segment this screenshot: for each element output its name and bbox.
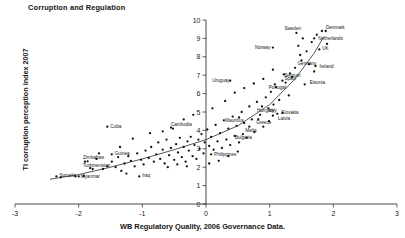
point-label: Denmark [326,25,345,30]
point-label: Slovakia [281,110,299,115]
y-tick-label: 10 [193,17,201,24]
data-point-labeled [318,48,320,50]
data-point [229,144,231,146]
data-point [212,149,214,151]
data-point [238,141,240,143]
data-point-labeled [172,127,174,129]
data-point-labeled [295,32,297,34]
y-axis: 012345678910 [193,17,206,208]
data-point [253,82,255,84]
point-label: Mauritius [225,118,244,123]
point-label: Germany [298,61,318,66]
y-tick-label: 2 [197,164,201,171]
scatter-plot: -3-2-10123 012345678910 SwedenDenmarkNet… [0,0,405,238]
data-point-labeled [78,175,80,177]
point-label: Cambodia [171,122,192,127]
point-labels: SwedenDenmarkNetherlandsNorwayUKGermanyI… [59,25,345,179]
data-point [272,69,274,71]
data-point [299,54,301,56]
data-point-labeled [111,153,113,155]
data-point [190,136,192,138]
data-point-labeled [304,83,306,85]
data-point [184,161,186,163]
y-tick-label: 1 [197,182,201,189]
y-tick-label: 0 [197,201,201,208]
data-point [197,138,199,140]
data-point [225,138,227,140]
data-point [102,168,104,170]
data-point [188,149,190,151]
data-point-labeled [92,168,94,170]
data-point-labeled [321,30,323,32]
point-label: Turkmenistan [83,163,111,168]
point-label: Uruguay [212,78,230,83]
y-tick-label: 7 [197,72,201,79]
data-point [120,170,122,172]
x-tick-label: 2 [331,210,335,217]
point-label: Sweden [284,26,301,31]
data-point [157,141,159,143]
point-label: Spain [284,76,296,81]
data-point [123,162,125,164]
chart-container: Corruption and Regulation TI corruption … [0,0,405,238]
y-tick-label: 6 [197,90,201,97]
data-point [227,127,229,129]
data-point [153,161,155,163]
data-point [214,124,216,126]
x-tick-label: -1 [139,210,145,217]
data-point [155,153,157,155]
data-point [195,158,197,160]
data-point [165,138,167,140]
x-tick-label: 1 [268,210,272,217]
data-point [216,140,218,142]
point-label: Estonia [310,80,326,85]
data-point-labeled [281,80,283,82]
data-point [177,151,179,153]
point-label: Zimbabwe [83,155,105,160]
point-label: Ireland [320,64,334,69]
point-label: Cuba [110,124,121,129]
point-label: Malta [245,128,257,133]
data-point [206,128,208,130]
data-point [302,37,304,39]
x-axis: -3-2-10123 [12,204,399,217]
point-label: Norway [255,45,271,50]
data-point [167,166,169,168]
data-point [140,159,142,161]
data-point [132,138,134,140]
data-point [262,126,264,128]
data-point-labeled [272,46,274,48]
data-point [142,163,144,165]
data-point [183,146,185,148]
data-point [248,105,250,107]
data-point [159,158,161,160]
data-point [305,50,307,52]
data-point [313,70,315,72]
data-point [259,114,261,116]
data-point [150,146,152,148]
data-point [234,92,236,94]
data-point [175,143,177,145]
data-point [168,154,170,156]
data-point [326,43,328,45]
data-point-labeled [106,126,108,128]
data-point [125,172,127,174]
data-point [262,78,264,80]
data-point [208,145,210,147]
data-point [294,67,296,69]
data-point [278,99,280,101]
data-point [136,152,138,154]
data-point [221,147,223,149]
data-point [288,94,290,96]
point-label: Portugal [269,85,286,90]
data-point [251,118,253,120]
point-label: UK [322,46,329,51]
data-point [198,148,200,150]
data-point [162,130,164,132]
data-point [241,111,243,113]
x-tick-label: -2 [76,210,82,217]
data-point [144,149,146,151]
data-point [272,103,274,105]
data-point [176,163,178,165]
data-point [204,141,206,143]
